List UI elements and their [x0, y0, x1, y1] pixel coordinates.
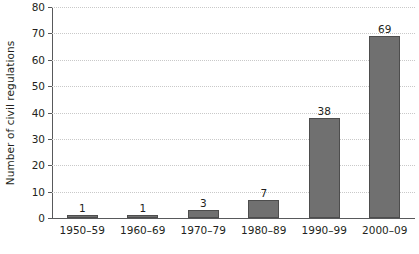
x-axis-tick-label: 2000–09	[362, 224, 407, 236]
y-axis-tick-label: 20	[32, 159, 45, 171]
y-axis-tick-mark	[48, 33, 52, 34]
x-axis-baseline	[52, 218, 415, 219]
x-axis-tick-label: 1950–59	[60, 224, 105, 236]
bar-value-label: 69	[378, 23, 391, 35]
gridline	[52, 139, 415, 140]
plot-area: 01020304050607080 11373869	[52, 7, 415, 218]
bar-item[interactable]: 69	[369, 23, 400, 218]
y-axis-tick-label: 40	[32, 107, 45, 119]
gridline	[52, 192, 415, 193]
gridline	[52, 7, 415, 8]
bar[interactable]	[127, 215, 158, 218]
bar-value-label: 1	[79, 202, 86, 214]
y-axis-tick-mark	[48, 7, 52, 8]
bar-chart: Number of civil regulations 010203040506…	[0, 0, 419, 254]
bar-value-label: 1	[139, 202, 146, 214]
y-axis-tick-mark	[48, 60, 52, 61]
x-axis-tick-label: 1990–99	[302, 224, 347, 236]
bar-item[interactable]: 1	[127, 202, 158, 218]
y-axis-tick-mark	[48, 86, 52, 87]
bar-value-label: 38	[318, 105, 331, 117]
y-axis-tick-mark	[48, 192, 52, 193]
y-axis-title: Number of civil regulations	[0, 0, 20, 225]
x-axis-tick-label: 1970–79	[181, 224, 226, 236]
bar[interactable]	[188, 210, 219, 218]
x-axis-tick-label: 1960–69	[120, 224, 165, 236]
bar[interactable]	[369, 36, 400, 218]
bar[interactable]	[67, 215, 98, 218]
y-axis-tick-mark	[48, 139, 52, 140]
gridline	[52, 113, 415, 114]
y-axis-tick-mark	[48, 165, 52, 166]
y-axis-tick-label: 80	[32, 1, 45, 13]
y-axis-tick-label: 0	[38, 212, 45, 224]
bar[interactable]	[309, 118, 340, 218]
bar-item[interactable]: 7	[248, 187, 279, 218]
gridline	[52, 86, 415, 87]
y-axis-tick-label: 10	[32, 186, 45, 198]
y-axis-tick-label: 60	[32, 54, 45, 66]
gridline	[52, 60, 415, 61]
y-axis-tick-label: 70	[32, 27, 45, 39]
bar[interactable]	[248, 200, 279, 218]
bar-value-label: 3	[200, 197, 207, 209]
y-axis-tick-mark	[48, 218, 52, 219]
bar-item[interactable]: 1	[67, 202, 98, 218]
y-axis-title-text: Number of civil regulations	[4, 40, 16, 185]
gridline	[52, 33, 415, 34]
y-axis-tick-label: 30	[32, 133, 45, 145]
bar-value-label: 7	[260, 187, 267, 199]
gridline	[52, 165, 415, 166]
bar-item[interactable]: 3	[188, 197, 219, 218]
bar-item[interactable]: 38	[309, 105, 340, 218]
x-axis-labels: 1950–591960–691970–791980–891990–992000–…	[52, 224, 415, 244]
y-axis-tick-label: 50	[32, 80, 45, 92]
x-axis-tick-label: 1980–89	[241, 224, 286, 236]
y-axis-tick-mark	[48, 113, 52, 114]
